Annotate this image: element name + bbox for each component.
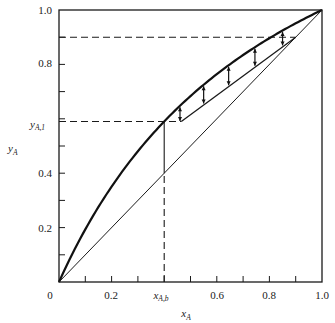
- arrowhead-up-icon: [281, 32, 285, 36]
- y-tick-label-1.0: 1.0: [38, 4, 52, 16]
- y-tick-label-0.4: 0.4: [38, 167, 52, 179]
- arrowhead-down-icon: [227, 81, 231, 85]
- arrowhead-down-icon: [281, 41, 285, 45]
- operating-line: [181, 37, 295, 121]
- y-axis-label: yA: [7, 142, 18, 157]
- x-tick-label-0: 0: [47, 289, 53, 301]
- x-tick-label-1.0: 1.0: [315, 289, 329, 301]
- arrowhead-down-icon: [178, 117, 182, 121]
- x-tick-label-0.6: 0.6: [210, 289, 224, 301]
- plot-area: [59, 10, 322, 282]
- x-ab-label: xA,b: [152, 289, 168, 303]
- arrowhead-down-icon: [253, 62, 257, 66]
- y-tick-label-0.2: 0.2: [38, 222, 52, 234]
- chart-svg: 0.2 0.4 0.8 1.0 yA,1 yA 0 0.2 0.6 0.8 1.…: [0, 0, 335, 323]
- arrowhead-down-icon: [202, 100, 206, 104]
- x-tick-label-0.8: 0.8: [262, 289, 276, 301]
- y-a1-label: yA,1: [29, 118, 45, 132]
- diagonal-line: [59, 10, 322, 282]
- x-axis-label: xA: [180, 307, 191, 322]
- y-tick-label-0.8: 0.8: [38, 57, 52, 69]
- x-tick-label-0.2: 0.2: [104, 289, 118, 301]
